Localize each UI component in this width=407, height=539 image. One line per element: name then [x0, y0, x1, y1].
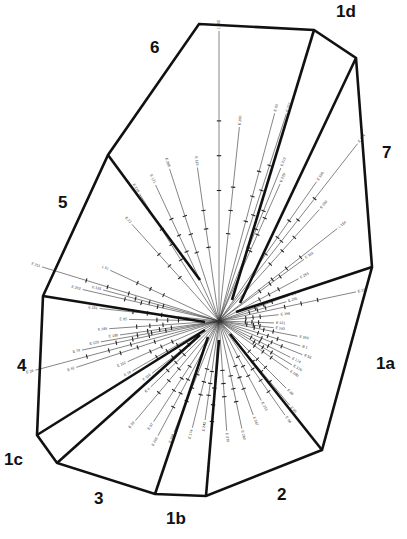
leaf-label: E 190: [316, 171, 325, 181]
sector-label-3: 3: [94, 490, 103, 507]
branch-tick: [246, 375, 250, 377]
leaf-label: E 59: [128, 421, 136, 429]
leaf-label: B 1: [302, 344, 308, 349]
branch-tick: [271, 278, 274, 281]
branch-tick: [202, 381, 206, 382]
branch-tick: [251, 368, 255, 371]
branch-tick: [229, 375, 233, 376]
branch-tick: [257, 171, 261, 172]
sector-boundary-line: [57, 335, 200, 463]
branch-tick: [281, 344, 283, 348]
leaf-label: E 270: [225, 433, 230, 443]
branch-tick: [253, 344, 256, 348]
branch-tick: [179, 392, 183, 394]
branch-tick: [299, 256, 302, 259]
branch-tick: [159, 327, 160, 331]
branch-tick: [180, 377, 184, 379]
branch-line: [219, 114, 286, 321]
branch-tick: [301, 301, 302, 305]
branch-tick: [265, 306, 266, 310]
branch-tick: [147, 329, 148, 333]
branch-tick: [270, 356, 273, 360]
branch-tick: [137, 345, 138, 349]
branch-tick: [233, 365, 237, 367]
branch-tick: [257, 331, 258, 335]
branch-line: [110, 270, 219, 321]
branch-tick: [186, 379, 190, 381]
branch-tick: [280, 240, 283, 243]
branch-tick: [171, 406, 175, 408]
branch-tick: [204, 229, 208, 230]
branch-tick: [254, 326, 255, 330]
sector-label-7: 7: [382, 144, 391, 161]
leaf-label: E 247: [252, 416, 259, 426]
branch-tick: [257, 308, 258, 312]
branch-line: [219, 321, 261, 400]
leaf-label: E 86: [286, 388, 294, 396]
branch-tick: [172, 389, 176, 391]
branch-tick: [189, 234, 193, 235]
leaf-label: E 174: [188, 429, 194, 439]
leaf-label: E 4: [144, 387, 151, 394]
branch-tick: [262, 350, 265, 354]
branch-line: [170, 169, 219, 321]
leaf-label: E 29: [26, 369, 34, 375]
sector-boundary-line: [108, 155, 200, 280]
leaf-label: E 205: [164, 157, 171, 167]
sector-label-1b: 1b: [166, 510, 186, 527]
branch-tick: [116, 341, 117, 345]
branch-tick: [284, 305, 285, 309]
branch-tick: [244, 221, 248, 222]
branch-tick: [247, 322, 248, 326]
branch-tick: [258, 298, 260, 302]
sector-label-5: 5: [58, 194, 67, 211]
branch-tick: [199, 394, 203, 395]
branch-tick: [179, 259, 183, 261]
branch-tick: [108, 348, 109, 352]
leaf-label: E 280: [240, 430, 246, 440]
branch-tick: [260, 324, 261, 328]
branch-tick: [258, 290, 261, 294]
leaf-label: E 188: [108, 333, 118, 338]
leaf-label: E 151: [88, 305, 98, 310]
leaf-label: E 212: [280, 157, 287, 167]
branch-tick: [259, 190, 263, 191]
branch-tick: [151, 331, 152, 335]
sector-label-4: 4: [17, 357, 26, 374]
branch-tick: [137, 333, 138, 337]
leaf-label: E 200: [319, 200, 328, 210]
branch-line: [219, 127, 239, 321]
branch-tick: [313, 197, 316, 200]
branch-tick: [261, 336, 263, 340]
branch-tick: [242, 388, 246, 390]
branch-tick: [165, 328, 166, 332]
leaf-label: E 112: [117, 361, 127, 368]
leaf-label: E 125: [92, 285, 102, 291]
branch-tick: [210, 371, 214, 372]
branch-tick: [149, 300, 150, 304]
branch-tick: [249, 310, 250, 314]
branch-tick: [206, 395, 210, 396]
sector-label-2: 2: [277, 486, 286, 503]
leaf-label: E 198: [280, 312, 290, 317]
sector-boundary-line: [232, 30, 314, 300]
leaf-label: E 265: [151, 437, 159, 447]
branch-tick: [262, 345, 264, 349]
branch-tick: [261, 210, 265, 212]
leaf-label: E 185: [98, 327, 108, 332]
leaf-label: E 260: [238, 116, 243, 126]
branch-tick: [269, 282, 272, 286]
branch-tick: [141, 301, 142, 305]
leaf-label: E 42: [67, 366, 75, 372]
branch-tick: [236, 356, 240, 358]
sector-label-6: 6: [150, 39, 159, 56]
branch-tick: [149, 334, 150, 338]
branch-tick: [86, 354, 87, 358]
sector-boundary-line: [240, 58, 356, 303]
leaf-label: E 85: [120, 317, 127, 321]
branch-tick: [287, 219, 291, 222]
leaf-label: E 560: [299, 335, 309, 341]
leaf-label: E 79: [72, 349, 80, 354]
leaf-label: L 51: [101, 265, 109, 272]
branch-tick: [267, 390, 271, 393]
